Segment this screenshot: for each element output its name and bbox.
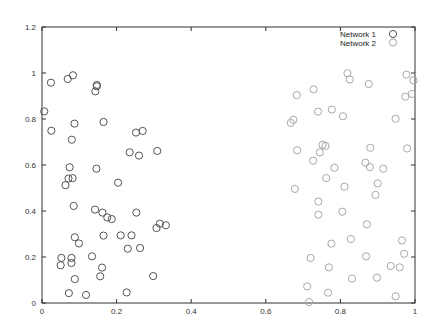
data-point xyxy=(98,264,105,271)
data-point xyxy=(372,191,379,198)
data-point xyxy=(136,244,143,251)
data-points xyxy=(41,70,417,306)
data-point xyxy=(82,291,89,298)
data-point xyxy=(91,206,98,213)
data-point xyxy=(114,179,121,186)
y-tick-label: 1.2 xyxy=(25,23,37,32)
data-point xyxy=(346,76,353,83)
data-point xyxy=(65,290,72,297)
y-tick-label: 0.4 xyxy=(25,207,37,216)
data-point xyxy=(392,115,399,122)
data-point xyxy=(366,163,373,170)
data-point xyxy=(154,147,161,154)
x-tick-label: 1 xyxy=(413,307,418,316)
data-point xyxy=(310,157,317,164)
data-point xyxy=(97,273,104,280)
data-point xyxy=(128,232,135,239)
data-point xyxy=(71,275,78,282)
data-point xyxy=(104,214,111,221)
y-tick-label: 0.6 xyxy=(25,161,37,170)
data-point xyxy=(347,235,354,242)
data-point xyxy=(66,164,73,171)
data-point xyxy=(339,113,346,120)
data-point xyxy=(316,149,323,156)
data-point xyxy=(108,215,115,222)
data-point xyxy=(69,175,76,182)
data-point xyxy=(365,80,372,87)
data-point xyxy=(293,91,300,98)
data-point xyxy=(310,86,317,93)
data-point xyxy=(363,221,370,228)
data-point xyxy=(93,165,100,172)
data-point xyxy=(404,145,411,152)
legend-label: Network 2 xyxy=(340,39,377,48)
data-point xyxy=(362,159,369,166)
series-network-2 xyxy=(287,70,417,306)
data-point xyxy=(150,272,157,279)
data-point xyxy=(71,120,78,127)
data-point xyxy=(48,127,55,134)
data-point xyxy=(100,118,107,125)
data-point xyxy=(392,293,399,300)
data-point xyxy=(363,253,370,260)
data-point xyxy=(402,93,409,100)
data-point xyxy=(133,209,140,216)
data-point xyxy=(92,88,99,95)
y-tick-label: 1 xyxy=(32,69,37,78)
data-point xyxy=(396,264,403,271)
data-point xyxy=(315,198,322,205)
y-tick-label: 0.8 xyxy=(25,115,37,124)
data-point xyxy=(69,72,76,79)
data-point xyxy=(126,149,133,156)
data-point xyxy=(58,254,65,261)
y-axis: 00.20.40.60.811.2 xyxy=(25,23,415,308)
data-point xyxy=(47,79,54,86)
x-axis: 00.20.40.60.81 xyxy=(40,27,418,316)
data-point xyxy=(132,129,139,136)
data-point xyxy=(410,77,417,84)
legend: Network 1Network 2 xyxy=(340,30,397,48)
data-point xyxy=(373,274,380,281)
data-point xyxy=(325,264,332,271)
data-point xyxy=(64,75,71,82)
data-point xyxy=(348,275,355,282)
data-point xyxy=(100,232,107,239)
data-point xyxy=(314,108,321,115)
data-point xyxy=(307,254,314,261)
x-tick-label: 0.6 xyxy=(260,307,272,316)
data-point xyxy=(57,262,64,269)
data-point xyxy=(380,165,387,172)
data-point xyxy=(291,185,298,192)
data-point xyxy=(398,237,405,244)
data-point xyxy=(135,152,142,159)
data-point xyxy=(123,289,130,296)
data-point xyxy=(117,232,124,239)
data-point xyxy=(305,298,312,305)
series-network-1 xyxy=(41,72,170,299)
data-point xyxy=(401,250,408,257)
data-point xyxy=(88,253,95,260)
data-point xyxy=(294,147,301,154)
data-point xyxy=(328,106,335,113)
x-tick-label: 0.2 xyxy=(111,307,123,316)
data-point xyxy=(374,180,381,187)
x-tick-label: 0 xyxy=(40,307,45,316)
data-point xyxy=(324,289,331,296)
data-point xyxy=(339,208,346,215)
legend-marker-icon xyxy=(389,30,396,37)
data-point xyxy=(124,245,131,252)
data-point xyxy=(403,71,410,78)
x-tick-label: 0.4 xyxy=(186,307,198,316)
data-point xyxy=(331,164,338,171)
data-point xyxy=(367,144,374,151)
data-point xyxy=(323,175,330,182)
data-point xyxy=(75,240,82,247)
x-tick-label: 0.8 xyxy=(335,307,347,316)
y-tick-label: 0 xyxy=(32,299,37,308)
scatter-chart: 00.20.40.60.811.2 00.20.40.60.81 Network… xyxy=(0,0,442,330)
data-point xyxy=(387,262,394,269)
data-point xyxy=(62,182,69,189)
y-tick-label: 0.2 xyxy=(25,253,37,262)
data-point xyxy=(328,240,335,247)
data-point xyxy=(70,202,77,209)
